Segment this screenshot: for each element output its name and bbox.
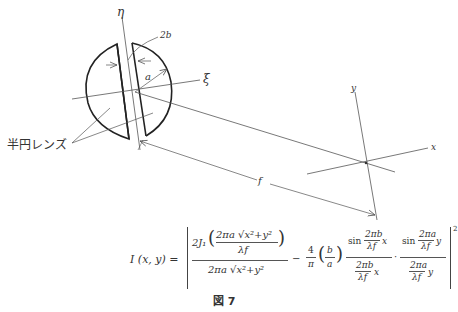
exponent: 2 xyxy=(453,225,457,233)
term1-inner-num: 2πa √x²+y² xyxy=(216,229,272,240)
abs-bar-right xyxy=(450,227,451,289)
x-label: x xyxy=(431,143,436,152)
sinc2-num-top: 2πa xyxy=(419,229,436,239)
coef-num: 4 xyxy=(308,245,314,255)
sinc1-num-top: 2πb xyxy=(365,229,382,239)
focal-dimension-left xyxy=(140,141,257,180)
ratio-num: b xyxy=(327,245,333,255)
x-axis xyxy=(307,148,428,174)
sinc2-num-var: y xyxy=(436,236,441,246)
half-lens-label: 半円レンズ xyxy=(7,139,67,151)
sinc2-sin: sin xyxy=(402,236,415,246)
paren-close: ) xyxy=(278,227,285,248)
sinc1-fraction-line xyxy=(346,257,392,258)
eta-label: η xyxy=(117,6,124,18)
formula-lhs: I (x, y) = xyxy=(130,253,179,266)
sinc2-fraction-line xyxy=(400,257,446,258)
term1-denominator: 2πa √x²+y² xyxy=(208,264,264,275)
intensity-formula: I (x, y) = 2J₁ ( 2πa √x²+y² λf ) 2πa √x²… xyxy=(130,225,458,297)
term1-inner-den: λf xyxy=(238,244,248,255)
coef-fraction-line xyxy=(306,257,316,258)
ratio-den: a xyxy=(327,259,332,269)
ratio-paren-close: ) xyxy=(336,243,343,264)
coef-den: π xyxy=(308,259,314,269)
term1-inner-fraction-line xyxy=(216,242,278,243)
xi-axis xyxy=(72,80,200,99)
sinc2-den-var: y xyxy=(428,267,433,277)
gap-width-label: 2b xyxy=(160,31,172,40)
xi-label: ξ xyxy=(203,73,210,85)
y-label: y xyxy=(351,84,356,93)
sinc1-den-var: x xyxy=(374,267,379,277)
ratio-fraction-line xyxy=(325,257,335,258)
ratio-paren-open: ( xyxy=(318,243,325,264)
sinc1-den-bottom: λf xyxy=(358,272,367,282)
y-axis xyxy=(355,92,377,220)
radius-label: a xyxy=(145,72,151,82)
sinc1-sin: sin xyxy=(348,236,361,246)
minus-sign: − xyxy=(292,253,300,264)
term1-prefix: 2J₁ xyxy=(192,237,206,248)
focal-dimension-right xyxy=(270,184,375,215)
sinc1-num-bottom: λf xyxy=(367,241,376,251)
abs-bar-left xyxy=(187,227,188,289)
sinc1-den-top: 2πb xyxy=(356,260,373,270)
term1-fraction-line xyxy=(192,260,288,261)
dot-operator: · xyxy=(394,251,397,262)
sinc2-den-bottom: λf xyxy=(412,272,421,282)
optical-ray xyxy=(135,92,395,172)
sinc2-num-bottom: λf xyxy=(421,241,430,251)
sinc2-den-top: 2πa xyxy=(410,260,427,270)
figure-caption: 図 7 xyxy=(213,292,235,308)
sinc1-num-var: x xyxy=(382,236,387,246)
paren-open: ( xyxy=(208,227,215,248)
focal-length-label: f xyxy=(258,176,262,186)
